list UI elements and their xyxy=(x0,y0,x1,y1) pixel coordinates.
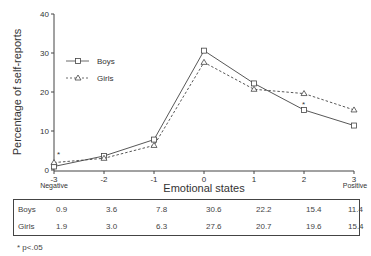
legend: Boys Girls xyxy=(66,57,115,83)
svg-text:0: 0 xyxy=(45,166,50,175)
legend-label-boys: Boys xyxy=(97,57,115,66)
significance-markers: * * xyxy=(57,100,305,159)
line-chart: 010203040 -3-2-10123 Percentage of self-… xyxy=(0,0,371,200)
y-axis-label: Percentage of self-reports xyxy=(11,28,23,155)
y-ticks: 010203040 xyxy=(40,10,54,175)
table-cell: 27.6 xyxy=(206,222,222,231)
svg-text:*: * xyxy=(57,150,60,159)
table-cell: 22.2 xyxy=(256,205,272,214)
table-cell: 3.6 xyxy=(106,205,117,214)
table-cell: 0.9 xyxy=(56,205,67,214)
svg-text:30: 30 xyxy=(40,49,49,58)
svg-text:-1: -1 xyxy=(150,175,158,184)
table-cell: 30.6 xyxy=(206,205,222,214)
row-label: Girls xyxy=(18,222,34,231)
square-marker-icon xyxy=(76,59,81,64)
table-cell: 7.8 xyxy=(156,205,167,214)
svg-text:1: 1 xyxy=(252,175,257,184)
table-cell: 15.4 xyxy=(348,222,364,231)
svg-text:2: 2 xyxy=(302,175,307,184)
table-row: Girls1.93.06.327.620.719.615.4 xyxy=(14,222,359,234)
table-cell: 3.0 xyxy=(106,222,117,231)
data-table: Boys0.93.67.830.622.215.411.4 Girls1.93.… xyxy=(13,199,360,236)
table-cell: 15.4 xyxy=(306,205,322,214)
legend-label-girls: Girls xyxy=(97,74,113,83)
table-cell: 6.3 xyxy=(156,222,167,231)
row-label: Boys xyxy=(18,205,36,214)
x-end-label-positive: Positive xyxy=(343,182,368,189)
series-lines xyxy=(51,48,357,169)
x-axis-label: Emotional states xyxy=(163,182,245,194)
table-cell: 1.9 xyxy=(56,222,67,231)
table-row: Boys0.93.67.830.622.215.411.4 xyxy=(14,205,359,217)
svg-text:40: 40 xyxy=(40,10,49,19)
svg-text:10: 10 xyxy=(40,127,49,136)
svg-text:20: 20 xyxy=(40,88,49,97)
x-end-label-negative: Negative xyxy=(40,182,68,190)
svg-text:*: * xyxy=(302,100,305,109)
footnote: * p<.05 xyxy=(17,243,43,252)
table-cell: 11.4 xyxy=(348,205,363,214)
table-cell: 19.6 xyxy=(306,222,322,231)
triangle-marker-icon xyxy=(75,75,81,80)
svg-text:-2: -2 xyxy=(100,175,108,184)
table-cell: 20.7 xyxy=(256,222,272,231)
